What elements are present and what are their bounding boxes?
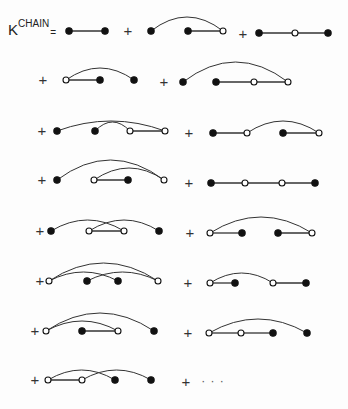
diagram-d11 [207, 217, 315, 236]
open-vertex [162, 128, 168, 134]
filled-vertex [112, 377, 118, 383]
plus-sign: + [160, 73, 169, 90]
filled-vertex [115, 278, 121, 284]
diagram-d8 [54, 160, 167, 183]
arc-edge [183, 62, 288, 82]
open-vertex [45, 377, 51, 383]
diagram-d13 [207, 273, 309, 286]
filled-vertex [239, 230, 245, 236]
arc-edge [210, 217, 312, 233]
arc-edge [209, 319, 307, 333]
filled-vertex [102, 28, 108, 34]
diagram-d4 [63, 68, 137, 83]
plus-sign: + [124, 22, 133, 39]
filled-vertex [325, 30, 331, 36]
plus-sign: + [38, 171, 47, 188]
plus-sign: + [36, 222, 45, 239]
plus-sign: + [239, 25, 248, 42]
open-vertex [270, 280, 276, 286]
open-vertex [251, 79, 257, 85]
filled-vertex [312, 180, 318, 186]
open-vertex [127, 128, 133, 134]
filled-vertex [256, 30, 262, 36]
filled-vertex [148, 28, 154, 34]
open-vertex [242, 180, 248, 186]
filled-vertex [232, 280, 238, 286]
diagram-d9 [208, 180, 318, 186]
plus-sign: + [185, 124, 194, 141]
diagram-d3 [256, 30, 331, 36]
plus-sign: + [38, 122, 47, 139]
open-vertex [121, 228, 127, 234]
filled-vertex [151, 328, 157, 334]
open-vertex [316, 130, 322, 136]
filled-vertex [275, 230, 281, 236]
open-vertex [115, 328, 121, 334]
plus-sign: + [185, 174, 194, 191]
filled-vertex [84, 278, 90, 284]
filled-vertex [79, 328, 85, 334]
plus-sign: + [184, 274, 193, 291]
diagram-d16 [45, 370, 154, 383]
filled-vertex [280, 130, 286, 136]
filled-vertex [303, 280, 309, 286]
filled-vertex [185, 28, 191, 34]
open-vertex [292, 30, 298, 36]
plus-sign: + [182, 373, 191, 390]
ellipsis: · · · [201, 374, 225, 388]
diagram-d5 [180, 62, 291, 85]
diagram-d12 [46, 263, 161, 284]
filled-vertex [148, 377, 154, 383]
diagram-d14 [43, 313, 157, 334]
open-vertex [238, 330, 244, 336]
plus-sign: + [31, 371, 40, 388]
plus-sign: + [186, 224, 195, 241]
chain-diagram-expansion: ++++++++++++++++· · · [0, 0, 348, 409]
filled-vertex [156, 228, 162, 234]
open-vertex [207, 280, 213, 286]
open-vertex [63, 77, 69, 83]
arc-edge [46, 313, 154, 331]
plus-sign: + [184, 324, 193, 341]
open-vertex [206, 330, 212, 336]
filled-vertex [131, 77, 137, 83]
open-vertex [86, 228, 92, 234]
diagram-d6 [54, 121, 168, 134]
filled-vertex [54, 177, 60, 183]
filled-vertex [48, 228, 54, 234]
open-vertex [207, 230, 213, 236]
open-vertex [285, 79, 291, 85]
filled-vertex [213, 79, 219, 85]
open-vertex [309, 230, 315, 236]
filled-vertex [97, 77, 103, 83]
open-vertex [43, 328, 49, 334]
filled-vertex [66, 28, 72, 34]
plus-sign: + [36, 272, 45, 289]
open-vertex [155, 278, 161, 284]
diagram-d7 [210, 121, 322, 136]
diagram-d2 [148, 17, 226, 34]
open-vertex [244, 130, 250, 136]
filled-vertex [54, 128, 60, 134]
plus-sign: + [31, 322, 40, 339]
filled-vertex [92, 128, 98, 134]
filled-vertex [304, 330, 310, 336]
open-vertex [91, 177, 97, 183]
plus-sign: + [39, 71, 48, 88]
open-vertex [220, 28, 226, 34]
diagram-d1 [66, 28, 108, 34]
open-vertex [79, 377, 85, 383]
open-vertex [46, 278, 52, 284]
arc-edge [57, 160, 164, 180]
filled-vertex [270, 330, 276, 336]
filled-vertex [125, 177, 131, 183]
diagram-d10 [48, 220, 162, 234]
open-vertex [161, 177, 167, 183]
diagram-d15 [206, 319, 310, 336]
filled-vertex [208, 180, 214, 186]
filled-vertex [210, 130, 216, 136]
arc-edge [95, 122, 130, 131]
filled-vertex [180, 79, 186, 85]
open-vertex [279, 180, 285, 186]
arc-edge [210, 273, 273, 283]
